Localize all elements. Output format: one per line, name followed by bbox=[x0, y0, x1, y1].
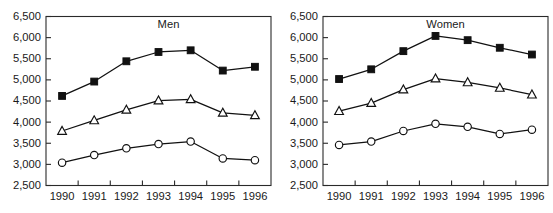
series-group-triangle bbox=[334, 74, 536, 114]
y-axis-tick-label: 3,500 bbox=[13, 137, 41, 149]
x-axis-tick-label: 1995 bbox=[210, 190, 235, 202]
series-group-triangle bbox=[58, 95, 260, 135]
data-point-circle bbox=[335, 141, 342, 148]
data-point-square bbox=[123, 58, 130, 65]
y-axis-tick-label: 5,500 bbox=[290, 52, 318, 64]
y-axis-tick-label: 3,500 bbox=[290, 137, 318, 149]
data-point-square bbox=[335, 76, 342, 83]
y-axis-tick-label: 4,000 bbox=[290, 116, 318, 128]
data-point-square bbox=[155, 49, 162, 56]
x-axis-tick-label: 1991 bbox=[82, 190, 107, 202]
series-group-circle bbox=[335, 120, 535, 149]
data-point-square bbox=[59, 93, 66, 100]
two-panel-line-chart-figure: 2,5003,0003,5004,0004,5005,0005,5006,000… bbox=[0, 0, 553, 213]
y-axis-tick-label: 5,500 bbox=[13, 52, 41, 64]
x-axis-tick-label: 1995 bbox=[487, 190, 512, 202]
x-axis-tick-label: 1994 bbox=[455, 190, 480, 202]
data-point-square bbox=[432, 33, 439, 40]
y-axis-tick-label: 5,000 bbox=[290, 73, 318, 85]
data-point-circle bbox=[528, 126, 535, 133]
panel-title: Men bbox=[158, 18, 180, 30]
data-point-circle bbox=[367, 138, 374, 145]
data-point-triangle bbox=[431, 74, 440, 82]
x-axis-tick-label: 1993 bbox=[146, 190, 171, 202]
y-axis-tick-label: 5,000 bbox=[13, 73, 41, 85]
x-axis-tick-label: 1990 bbox=[326, 190, 351, 202]
data-point-triangle bbox=[186, 95, 195, 103]
chart-panel-women: 2,5003,0003,5004,0004,5005,0005,5006,000… bbox=[277, 0, 553, 213]
series-group-square bbox=[59, 47, 259, 99]
data-point-circle bbox=[155, 140, 162, 147]
panel-title: Women bbox=[426, 18, 464, 30]
y-axis-tick-label: 6,500 bbox=[290, 10, 318, 22]
y-axis-tick-label: 2,500 bbox=[290, 179, 318, 191]
x-axis-tick-label: 1996 bbox=[242, 190, 267, 202]
data-point-square bbox=[252, 63, 259, 70]
data-point-square bbox=[187, 47, 194, 54]
y-axis-tick-label: 4,000 bbox=[13, 116, 41, 128]
x-axis-tick-label: 1996 bbox=[519, 190, 544, 202]
y-axis-tick-label: 4,500 bbox=[13, 94, 41, 106]
data-point-circle bbox=[463, 123, 470, 130]
data-point-square bbox=[528, 51, 535, 58]
series-group-circle bbox=[58, 138, 258, 167]
chart-panel-men: 2,5003,0003,5004,0004,5005,0005,5006,000… bbox=[0, 0, 277, 213]
y-axis-tick-label: 3,000 bbox=[290, 158, 318, 170]
data-point-circle bbox=[123, 145, 130, 152]
x-axis-tick-label: 1992 bbox=[114, 190, 139, 202]
y-axis-tick-label: 6,500 bbox=[13, 10, 41, 22]
x-axis-tick-label: 1991 bbox=[358, 190, 383, 202]
data-point-circle bbox=[251, 156, 258, 163]
data-point-square bbox=[399, 48, 406, 55]
data-point-circle bbox=[219, 155, 226, 162]
data-point-square bbox=[91, 78, 98, 85]
x-axis-tick-label: 1992 bbox=[390, 190, 415, 202]
data-point-circle bbox=[187, 138, 194, 145]
x-axis-tick-label: 1994 bbox=[178, 190, 203, 202]
chart-svg-men: 2,5003,0003,5004,0004,5005,0005,5006,000… bbox=[0, 0, 277, 213]
data-point-square bbox=[219, 67, 226, 74]
data-point-circle bbox=[431, 120, 438, 127]
data-point-circle bbox=[496, 130, 503, 137]
x-axis-tick-label: 1993 bbox=[423, 190, 448, 202]
y-axis-tick-label: 6,000 bbox=[290, 31, 318, 43]
data-point-circle bbox=[91, 151, 98, 158]
data-point-circle bbox=[399, 127, 406, 134]
x-axis-tick-label: 1990 bbox=[50, 190, 75, 202]
y-axis-tick-label: 3,000 bbox=[13, 158, 41, 170]
data-point-circle bbox=[58, 159, 65, 166]
y-axis-tick-label: 2,500 bbox=[13, 179, 41, 191]
plot-frame bbox=[323, 17, 548, 186]
chart-svg-women: 2,5003,0003,5004,0004,5005,0005,5006,000… bbox=[277, 0, 553, 213]
data-point-square bbox=[367, 66, 374, 73]
y-axis-tick-label: 6,000 bbox=[13, 31, 41, 43]
y-axis-tick-label: 4,500 bbox=[290, 94, 318, 106]
data-point-square bbox=[496, 44, 503, 51]
data-point-square bbox=[464, 37, 471, 44]
